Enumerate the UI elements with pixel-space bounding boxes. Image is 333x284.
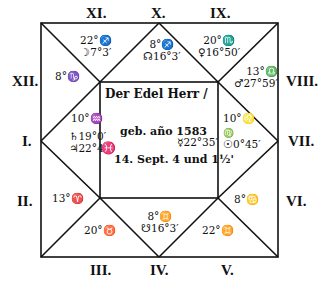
house-x-cusp: 8°♐: [143, 38, 181, 50]
house-vii-virgo-sign: ♍: [223, 128, 261, 138]
house-label-v: V.: [221, 263, 234, 278]
center-birth-year: geb. año 1583: [120, 126, 207, 137]
house-v-cusp: 22°♊: [202, 224, 234, 236]
house-v: 22°♊: [202, 224, 234, 236]
house-ii: 13°♈: [52, 192, 84, 204]
center-title: Der Edel Herr /: [105, 88, 208, 100]
house-vii-cusp: 10°♌: [223, 112, 261, 124]
house-iv-cusp: 8°♊: [141, 210, 179, 222]
house-iii: 20°♉: [84, 224, 116, 236]
house-label-ix: IX.: [210, 6, 230, 21]
house-label-viii: VIII.: [286, 74, 318, 89]
house-vii-sun: ☉0°45′: [223, 138, 261, 150]
house-viii: 13°♎ ♂27°59′: [234, 65, 278, 89]
house-vii: 10°♌ ♍ ☉0°45′: [223, 112, 261, 150]
house-x: 8°♐ ☊16°3′: [143, 38, 181, 62]
house-xi-moon: ☽7°3′: [80, 46, 112, 58]
house-vi-cusp: 8°♋: [234, 193, 259, 205]
house-viii-cusp: 13°♎: [234, 65, 278, 77]
house-vi: 8°♋: [234, 193, 259, 205]
house-label-iii: III.: [90, 263, 111, 278]
house-x-north-node: ☊16°3′: [143, 50, 181, 62]
house-iv: 8°♊ ☋16°3′: [141, 210, 179, 234]
house-xii-cusp: 8°♑: [55, 70, 80, 82]
house-label-xi: XI.: [86, 6, 106, 21]
house-viii-mars: ♂27°59′: [234, 77, 278, 89]
house-xi-cusp: 22°♐: [80, 34, 112, 46]
house-label-vii: VII.: [288, 134, 314, 149]
center-birth-date: 14. Sept. 4 und 1½': [114, 154, 234, 165]
house-label-xii: XII.: [12, 74, 38, 89]
house-xi: 22°♐ ☽7°3′: [80, 34, 112, 58]
house-ix: 20°♏ ♀16°50′: [198, 34, 240, 58]
house-label-ii: II.: [17, 194, 32, 209]
house-label-vi: VI.: [286, 194, 306, 209]
house-label-x: X.: [151, 6, 166, 21]
house-label-iv: IV.: [150, 263, 169, 278]
house-label-i: I.: [22, 134, 32, 149]
house-iii-cusp: 20°♉: [84, 224, 116, 236]
house-iv-south-node: ☋16°3′: [141, 222, 179, 234]
house-xii: 8°♑: [55, 70, 80, 82]
house-i-cusp: 10°♒: [69, 112, 113, 124]
house-ii-cusp: 13°♈: [52, 192, 84, 204]
house-ix-cusp: 20°♏: [198, 34, 240, 46]
house-ix-venus: ♀16°50′: [198, 46, 240, 58]
